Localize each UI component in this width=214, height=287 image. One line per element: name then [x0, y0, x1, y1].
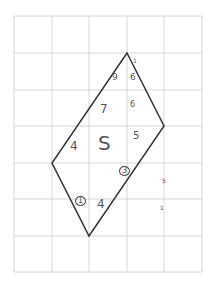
handwritten-number: 1 [75, 196, 86, 206]
handwritten-number: 6 [130, 73, 136, 82]
handwritten-number: 4 [97, 198, 105, 210]
handwritten-number: 6 [130, 101, 135, 109]
handwritten-number: 9 [112, 73, 118, 82]
handwritten-number: 4 [70, 140, 78, 152]
handwritten-number: 5 [162, 178, 166, 184]
handwritten-number: 1 [133, 58, 137, 64]
handwritten-number: 7 [100, 103, 108, 115]
handwritten-number: 3 [119, 166, 130, 176]
handwritten-number: 1 [160, 205, 164, 211]
handwritten-number: 5 [133, 131, 139, 141]
handwritten-number: S [98, 133, 111, 153]
